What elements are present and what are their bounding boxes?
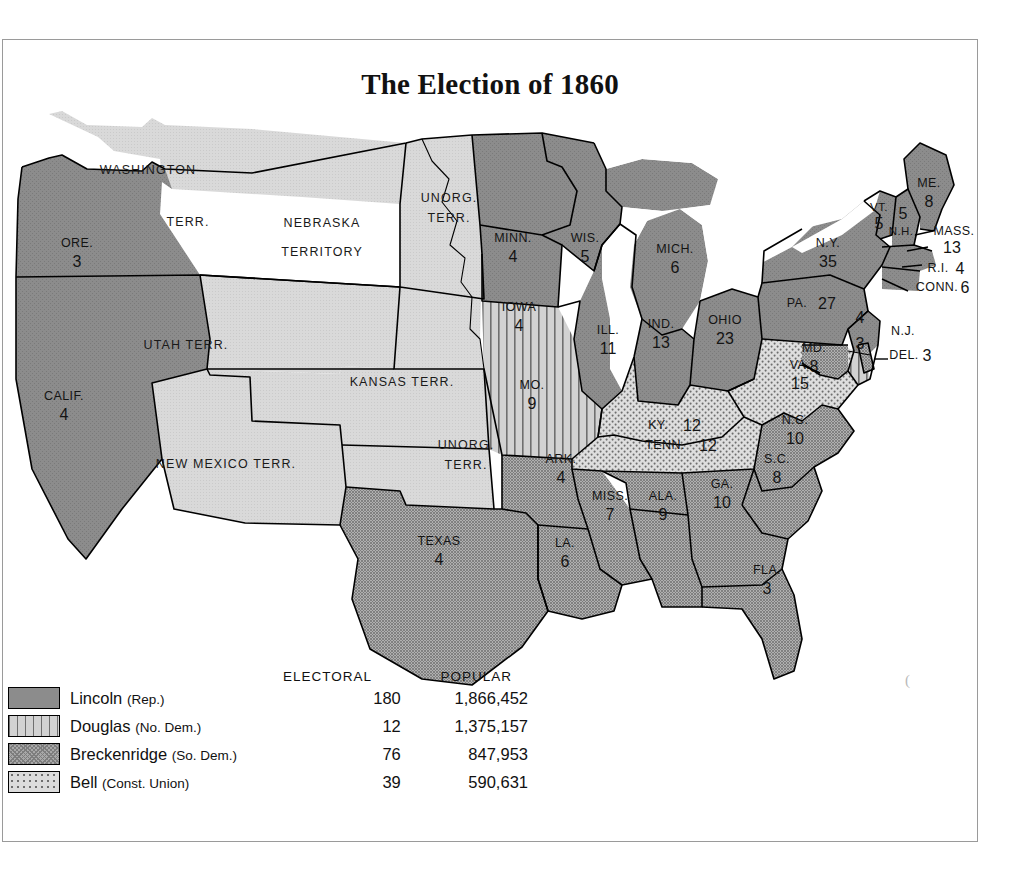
label-iowa: IOWA [502,300,537,314]
votes-me: 8 [925,193,934,210]
legend-label-bell: Bell (Const. Union) [70,773,314,792]
label-ind: IND. [648,317,675,331]
legend-swatch-douglas [8,715,60,737]
label-me: ME. [917,176,940,190]
legend: ELECTORAL POPULAR Lincoln (Rep.) 180 1,8… [8,660,528,796]
scan-artifact: ( [905,672,910,689]
legend-electoral-douglas: 12 [314,717,401,736]
legend-swatch-breckenridge [8,743,60,765]
votes-nj-douglas: 3 [856,335,865,352]
votes-texas: 4 [435,551,444,568]
votes-ala: 9 [659,506,668,523]
legend-header-electoral: ELECTORAL [276,669,372,684]
votes-del: 3 [923,347,932,364]
legend-header-popular: POPULAR [372,669,512,684]
legend-swatch-bell [8,771,60,793]
label-pa: PA. [787,296,807,310]
label-mich: MICH. [656,242,693,256]
votes-iowa: 4 [515,317,524,334]
label-nh: N.H. [889,225,914,237]
label-calif: CALIF. [44,389,84,403]
label-nc: N.C. [782,413,809,427]
votes-pa: 27 [818,295,836,312]
state-texas [340,487,548,685]
legend-row-breckenridge: Breckenridge (So. Dem.) 76 847,953 [8,740,528,768]
label-ohio: OHIO [708,313,742,327]
label-ala: ALA. [649,489,678,503]
label-unorg-south-1: UNORG. [438,438,495,452]
votes-ri: 4 [956,260,965,277]
votes-nh: 5 [899,205,908,222]
votes-minn: 4 [509,248,518,265]
label-ga: GA. [711,477,734,491]
label-ky: KY. [648,418,668,432]
label-mass: MASS. [934,224,975,238]
label-washington-1: WASHINGTON [100,163,196,177]
label-nebraska-2: TERRITORY [281,245,363,259]
votes-wis: 5 [581,248,590,265]
votes-nc: 10 [786,430,804,447]
leader-mass [915,231,933,235]
legend-row-bell: Bell (Const. Union) 39 590,631 [8,768,528,796]
legend-label-douglas: Douglas (No. Dem.) [70,717,314,736]
votes-la: 6 [561,553,570,570]
label-unorg-north-2: TERR. [428,211,471,225]
label-newmexico: NEW MEXICO TERR. [156,457,296,471]
legend-popular-bell: 590,631 [401,773,528,792]
label-oregon: ORE. [61,236,93,250]
label-ark: ARK. [546,452,577,466]
label-tenn: TENN. [645,438,685,452]
votes-miss: 7 [606,506,615,523]
votes-nj-lincoln: 4 [856,309,865,326]
label-la: LA. [555,536,575,550]
votes-ky: 12 [683,417,701,434]
label-ill: ILL. [597,323,619,337]
label-miss: MISS. [592,489,628,503]
votes-ill: 11 [600,340,617,357]
votes-ny: 35 [819,253,837,270]
label-md: MD. [802,341,826,355]
label-ny: N.Y. [816,236,840,250]
votes-oregon: 3 [73,253,82,270]
legend-electoral-lincoln: 180 [314,689,401,708]
legend-electoral-bell: 39 [314,773,401,792]
label-conn: CONN. [916,280,958,294]
label-unorg-north-1: UNORG. [421,191,478,205]
votes-calif: 4 [60,406,69,423]
votes-tenn: 12 [699,437,717,454]
label-unorg-south-2: TERR. [445,458,488,472]
legend-swatch-lincoln [8,687,60,709]
label-nebraska-1: NEBRASKA [284,216,361,230]
legend-electoral-breckenridge: 76 [314,745,401,764]
votes-va: 15 [791,375,809,392]
legend-popular-douglas: 1,375,157 [401,717,528,736]
votes-sc: 8 [773,469,782,486]
legend-popular-lincoln: 1,866,452 [401,689,528,708]
label-texas: TEXAS [418,534,461,548]
label-fla: FLA. [753,563,781,577]
label-washington-2: TERR. [167,215,210,229]
votes-mass: 13 [943,239,961,256]
label-wis: WIS. [571,231,600,245]
label-ri: R.I. [927,261,948,275]
label-minn: MINN. [494,231,531,245]
label-va: VA. [790,358,810,372]
legend-header-row: ELECTORAL POPULAR [8,660,528,684]
votes-conn: 6 [961,279,970,296]
territory-utah [200,275,400,374]
votes-ohio: 23 [716,330,734,347]
label-del: DEL. [889,348,918,362]
votes-vt: 5 [875,215,884,232]
label-kansas: KANSAS TERR. [350,375,455,389]
election-map-figure: The Election of 1860 [0,0,1020,883]
label-vt: VT. [870,201,888,213]
votes-fla: 3 [763,580,772,597]
label-nj: N.J. [891,324,915,338]
legend-row-douglas: Douglas (No. Dem.) 12 1,375,157 [8,712,528,740]
votes-ind: 13 [652,334,670,351]
label-utah: UTAH TERR. [144,338,229,352]
label-mo: MO. [520,378,545,392]
label-sc: S.C. [764,452,790,466]
legend-label-lincoln: Lincoln (Rep.) [70,689,314,708]
legend-row-lincoln: Lincoln (Rep.) 180 1,866,452 [8,684,528,712]
